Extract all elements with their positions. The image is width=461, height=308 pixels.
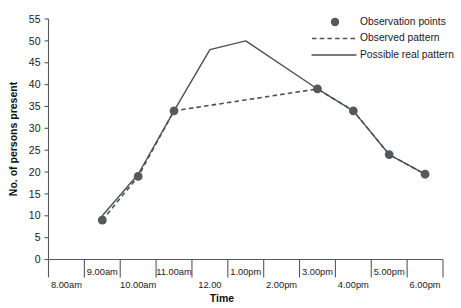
data-point bbox=[134, 172, 143, 181]
plot-area bbox=[98, 41, 430, 225]
series-possible-real-pattern bbox=[102, 41, 425, 216]
x-tick-label-lower: 8.00am bbox=[51, 280, 82, 290]
x-axis-tick-labels-upper: 9.00am11.00am1.00pm3.00pm5.00pm bbox=[87, 267, 405, 277]
y-tick-label: 45 bbox=[29, 56, 41, 68]
data-point bbox=[98, 216, 107, 225]
series-observation-points bbox=[98, 85, 430, 225]
y-axis: 0510152025303540455055 No. of persons pr… bbox=[7, 13, 49, 266]
y-tick-label: 10 bbox=[29, 209, 41, 221]
y-tick-label: 40 bbox=[29, 78, 41, 90]
x-tick-label-upper: 11.00am bbox=[156, 267, 192, 277]
legend-label-observation-points: Observation points bbox=[360, 16, 446, 27]
data-point bbox=[170, 106, 179, 115]
x-tick-label-lower: 10.00am bbox=[120, 280, 156, 290]
y-tick-label: 20 bbox=[29, 166, 41, 178]
legend-label-possible-real-pattern: Possible real pattern bbox=[360, 49, 454, 60]
x-tick-label-lower: 2.00pm bbox=[266, 280, 297, 290]
data-point bbox=[385, 150, 394, 159]
x-tick-label-upper: 1.00pm bbox=[230, 267, 261, 277]
x-tick-label-upper: 9.00am bbox=[87, 267, 118, 277]
y-tick-label: 55 bbox=[29, 13, 41, 25]
y-tick-label: 5 bbox=[35, 231, 41, 243]
legend-marker-dot-icon bbox=[331, 18, 339, 26]
y-axis-tick-labels: 0510152025303540455055 bbox=[29, 13, 41, 266]
y-tick-label: 30 bbox=[29, 122, 41, 134]
series-observed-pattern bbox=[102, 89, 425, 220]
y-axis-ticks bbox=[45, 19, 49, 260]
chart-container: 0510152025303540455055 No. of persons pr… bbox=[0, 0, 461, 308]
y-tick-label: 25 bbox=[29, 144, 41, 156]
data-point bbox=[421, 170, 430, 179]
y-axis-title: No. of persons present bbox=[7, 81, 19, 196]
y-tick-label: 50 bbox=[29, 35, 41, 47]
legend: Observation points Observed pattern Poss… bbox=[312, 16, 454, 60]
x-tick-label-upper: 5.00pm bbox=[374, 267, 405, 277]
y-tick-label: 35 bbox=[29, 100, 41, 112]
y-tick-label: 15 bbox=[29, 188, 41, 200]
data-point bbox=[313, 85, 322, 94]
line-chart: 0510152025303540455055 No. of persons pr… bbox=[0, 0, 461, 308]
legend-label-observed-pattern: Observed pattern bbox=[360, 32, 440, 43]
data-point bbox=[349, 106, 358, 115]
x-tick-label-lower: 6.00pm bbox=[410, 280, 441, 290]
x-axis-tick-labels-lower: 8.00am10.00am12.002.00pm4.00pm6.00pm bbox=[51, 280, 441, 290]
x-tick-label-lower: 4.00pm bbox=[338, 280, 369, 290]
y-tick-label: 0 bbox=[35, 253, 41, 265]
x-tick-label-upper: 3.00pm bbox=[302, 267, 333, 277]
x-axis: 9.00am11.00am1.00pm3.00pm5.00pm 8.00am10… bbox=[49, 260, 444, 305]
x-tick-label-lower: 12.00 bbox=[198, 280, 221, 290]
x-axis-title: Time bbox=[210, 292, 234, 304]
